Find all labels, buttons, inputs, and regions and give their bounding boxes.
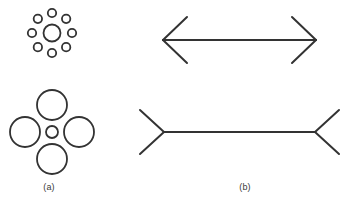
illusion-figure: (a) (b)	[0, 0, 356, 207]
panel-b-caption: (b)	[224, 182, 266, 192]
panel-a-caption: (a)	[28, 182, 70, 192]
figure-canvas	[0, 0, 356, 207]
figure-background	[0, 0, 356, 207]
